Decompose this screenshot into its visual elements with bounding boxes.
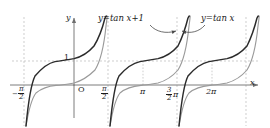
origin-point	[73, 84, 74, 85]
y-tick-label-1: 1	[64, 53, 69, 62]
fraction-numerator: π	[101, 86, 108, 93]
xtick-three-half-pi: 3 2 π	[166, 86, 178, 102]
curve-tan-x-plus-1	[26, 16, 258, 126]
fraction-pi-over-2: π 2	[101, 86, 108, 101]
y-axis-label: y	[66, 13, 71, 22]
xtick-half-pi: π 2	[101, 86, 108, 101]
xtick-pi: π	[140, 87, 145, 96]
tan-branch-1	[26, 16, 107, 126]
xtick-neg-half-pi: − π 2	[12, 86, 24, 101]
x-axis-label: x	[250, 78, 255, 87]
asymptote-lines	[24, 17, 246, 126]
curve-label-tan-x-plus-1: y=tan x+1	[98, 13, 144, 23]
origin-label: O	[78, 85, 85, 94]
fraction-denominator: 2	[101, 93, 108, 101]
tangent-function-figure: y x O 1 y=tan x+1 y=tan x − π 2 π 2 π 3 …	[0, 0, 270, 128]
xtick-two-pi: 2π	[206, 87, 216, 96]
curve-tan-x	[26, 16, 259, 126]
tan-branch-2	[110, 16, 190, 126]
curve-label-tan-x: y=tan x	[201, 13, 234, 23]
fraction-denominator: 2	[18, 93, 25, 101]
fraction-pi-over-2: π 2	[18, 86, 25, 101]
fraction-numerator: π	[18, 86, 25, 93]
pi-suffix: π	[172, 90, 178, 99]
arrow-to-tan-x-plus-1	[150, 25, 176, 32]
annotation-arrows	[150, 25, 205, 32]
